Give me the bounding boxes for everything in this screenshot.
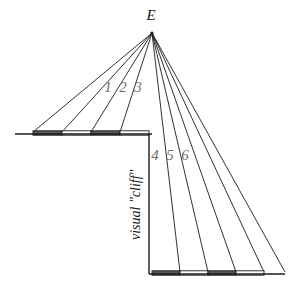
ray-label-1: 1 <box>104 79 112 95</box>
ray-label-3: 3 <box>133 79 142 95</box>
sight-ray-lower-3 <box>152 33 236 272</box>
cliff-caption: visual "cliff" <box>128 169 143 240</box>
ray-label-4: 4 <box>151 147 159 163</box>
lower-ray-labels: 456 <box>151 147 189 163</box>
ray-label-2: 2 <box>119 79 127 95</box>
visual-cliff-diagram: E 123 456 visual "cliff" <box>0 0 291 299</box>
ray-label-6: 6 <box>181 147 189 163</box>
upper-ray-labels: 123 <box>104 79 142 95</box>
eye-apex-point <box>150 31 153 34</box>
lower-surface <box>149 271 285 275</box>
upper-surface <box>15 131 152 135</box>
diagram-canvas: E 123 456 visual "cliff" <box>0 0 291 299</box>
eye-label: E <box>145 7 155 23</box>
sight-ray-lower-2 <box>152 33 208 272</box>
ray-label-5: 5 <box>166 147 174 163</box>
